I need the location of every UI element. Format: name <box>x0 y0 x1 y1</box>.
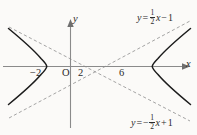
equation-sign: − <box>143 118 149 128</box>
origin-label: O <box>62 68 70 79</box>
equation-equals: = <box>142 13 148 23</box>
equation-variable: x <box>156 13 160 23</box>
y-axis-label: y <box>73 14 78 25</box>
x-tick-label-6: 6 <box>119 68 124 79</box>
equation-lhs: y <box>131 118 135 128</box>
fraction-denominator: 2 <box>150 17 156 26</box>
hyperbola-figure: y = 1 2 x − 1 y = − 1 2 x + 1 −2 2 6 O x… <box>0 0 197 135</box>
x-tick-label-2: 2 <box>78 68 83 79</box>
equation-constant: 1 <box>168 118 173 128</box>
x-tick-label-minus-2: −2 <box>30 68 41 79</box>
equation-lhs: y <box>137 13 141 23</box>
fraction-denominator: 2 <box>149 122 155 131</box>
asymptote-negative-equation-label: y = − 1 2 x + 1 <box>131 114 173 131</box>
asymptote-positive-equation-label: y = 1 2 x − 1 <box>137 9 173 26</box>
fraction-numerator: 1 <box>150 9 156 17</box>
x-axis-label: x <box>186 59 191 70</box>
equation-equals: = <box>136 118 142 128</box>
equation-variable: x <box>156 118 160 128</box>
fraction-one-half: 1 2 <box>150 9 156 26</box>
equation-operator: − <box>161 13 167 23</box>
equation-constant: 1 <box>168 13 173 23</box>
fraction-numerator: 1 <box>149 114 155 122</box>
equation-operator: + <box>161 118 167 128</box>
fraction-one-half: 1 2 <box>149 114 155 131</box>
